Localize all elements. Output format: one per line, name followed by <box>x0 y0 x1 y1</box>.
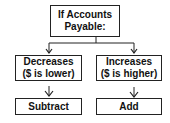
root-node-line2: Payable: <box>64 21 105 33</box>
subtract-node: Subtract <box>15 98 82 115</box>
root-node: If Accounts Payable: <box>50 5 120 37</box>
decreases-detail: ($ is lower) <box>22 68 74 80</box>
decreases-node: Decreases ($ is lower) <box>15 55 82 81</box>
add-node: Add <box>96 98 162 115</box>
root-node-line1: If Accounts <box>58 9 112 21</box>
increases-node: Increases ($ is higher) <box>96 55 162 81</box>
decreases-label: Decreases <box>23 56 73 68</box>
increases-detail: ($ is higher) <box>101 68 158 80</box>
add-label: Add <box>119 101 138 113</box>
subtract-label: Subtract <box>28 101 69 113</box>
increases-label: Increases <box>106 56 152 68</box>
